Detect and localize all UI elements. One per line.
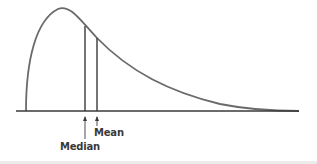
mean-arrow-icon (95, 116, 99, 126)
density-curve (26, 8, 299, 111)
mean-label: Mean (94, 127, 124, 138)
bottom-divider (0, 161, 317, 164)
median-label: Median (60, 141, 100, 152)
median-arrow-icon (83, 116, 87, 139)
skewed-distribution-diagram (0, 0, 317, 164)
